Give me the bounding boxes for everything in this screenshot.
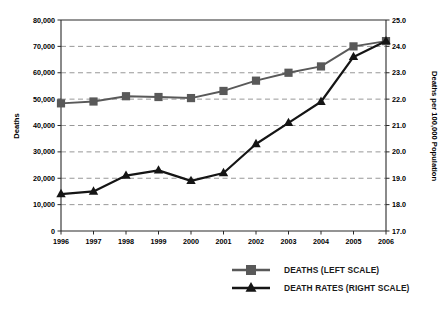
data-point-square <box>219 87 227 95</box>
x-axis-tick-label: 2001 <box>216 237 232 246</box>
y2-axis-title: Deaths per 100,000 Population <box>430 71 439 182</box>
data-point-square <box>89 97 97 105</box>
right-axis-tick-labels: 17.018.019.020.021.022.023.024.025.0 <box>392 16 406 236</box>
y-axis-tick-label: 0 <box>51 227 55 236</box>
data-point-square <box>252 77 260 85</box>
legend-marker-square <box>246 265 256 275</box>
y2-axis-tick-label: 19.0 <box>392 174 406 183</box>
x-axis-tick-label: 2006 <box>378 237 394 246</box>
y-axis-tick-label: 50,000 <box>33 95 55 104</box>
y2-axis-tick-label: 18.0 <box>392 200 406 209</box>
data-point-square <box>187 94 195 102</box>
data-point-square <box>154 93 162 101</box>
y-axis-tick-label: 40,000 <box>33 121 55 130</box>
x-axis-tick-label: 2004 <box>313 237 329 246</box>
y2-axis-tick-label: 22.0 <box>392 95 406 104</box>
y2-axis-tick-label: 17.0 <box>392 227 406 236</box>
x-axis-tick-label: 2002 <box>248 237 264 246</box>
y-axis-tick-label: 20,000 <box>33 174 55 183</box>
y2-axis-tick-label: 23.0 <box>392 68 406 77</box>
data-point-square <box>284 69 292 77</box>
left-axis-tick-labels: 010,00020,00030,00040,00050,00060,00070,… <box>33 16 55 236</box>
x-axis-tick-label: 2000 <box>183 237 199 246</box>
data-point-square <box>57 99 65 107</box>
x-axis-tick-label: 2005 <box>346 237 362 246</box>
y2-axis-tick-label: 25.0 <box>392 16 406 25</box>
y2-axis-tick-label: 24.0 <box>392 42 406 51</box>
y-axis-title: Deaths <box>12 113 21 138</box>
y-axis-tick-label: 10,000 <box>33 200 55 209</box>
y-axis-tick-label: 80,000 <box>33 16 55 25</box>
data-point-square <box>349 42 357 50</box>
data-point-square <box>122 92 130 100</box>
dual-axis-line-chart: 010,00020,00030,00040,00050,00060,00070,… <box>0 0 447 309</box>
y-axis-tick-label: 30,000 <box>33 147 55 156</box>
legend-label: DEATHS (LEFT SCALE) <box>284 265 379 275</box>
y-axis-tick-label: 60,000 <box>33 68 55 77</box>
x-axis-tick-label: 2003 <box>281 237 297 246</box>
x-axis-tick-label: 1997 <box>86 237 102 246</box>
x-axis-tick-label: 1998 <box>118 237 134 246</box>
y-axis-tick-label: 70,000 <box>33 42 55 51</box>
chart-container: 010,00020,00030,00040,00050,00060,00070,… <box>0 0 447 309</box>
data-point-square <box>317 62 325 70</box>
y2-axis-tick-label: 20.0 <box>392 147 406 156</box>
x-axis-tick-label: 1999 <box>151 237 167 246</box>
legend-label: DEATH RATES (RIGHT SCALE) <box>284 283 410 293</box>
x-axis-tick-label: 1996 <box>53 237 69 246</box>
y2-axis-tick-label: 21.0 <box>392 121 406 130</box>
